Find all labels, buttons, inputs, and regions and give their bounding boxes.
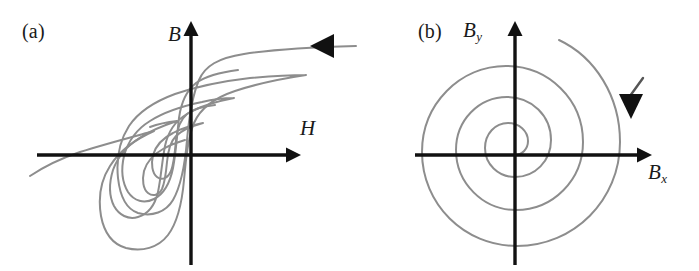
panel-a-axes — [37, 21, 301, 265]
panel-b-caption-label: (b) — [418, 20, 442, 43]
panel-b-direction-arrowhead — [619, 94, 643, 119]
panel-a-y-axis-arrowhead — [184, 21, 199, 36]
hysteresis-loop-outer — [30, 46, 356, 249]
panel-b-spiral: (b) By Bx — [360, 0, 699, 271]
panel-b-plot — [360, 0, 699, 271]
panel-b-y-axis-label-subscript: y — [476, 29, 482, 44]
panel-b-x-axis-label: Bx — [648, 160, 667, 187]
panel-a-x-axis-label: H — [300, 116, 315, 141]
figure-root: (a) B H (b) By Bx — [0, 0, 699, 271]
panel-b-y-axis-label: By — [463, 18, 482, 45]
panel-a-y-axis-label: B — [168, 22, 181, 47]
panel-a-direction-arrowhead — [310, 34, 334, 58]
panel-a-x-axis-arrowhead — [286, 148, 301, 163]
panel-a-hysteresis: (a) B H — [0, 0, 360, 271]
panel-b-x-axis-label-subscript: x — [661, 171, 667, 186]
panel-a-caption-label: (a) — [22, 20, 45, 43]
panel-b-x-axis-label-base: B — [648, 160, 661, 184]
panel-b-axes — [415, 21, 652, 265]
panel-b-y-axis-arrowhead — [508, 21, 523, 36]
hysteresis-loops — [30, 46, 356, 249]
spiral-curve — [422, 40, 620, 246]
panel-b-y-axis-label-base: B — [463, 18, 476, 42]
spiral-curve-group — [422, 40, 620, 246]
panel-b-direction-tick — [630, 78, 643, 96]
